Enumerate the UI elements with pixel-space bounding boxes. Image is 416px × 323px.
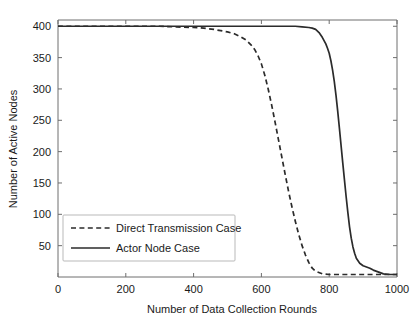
x-tick-label: 600 [252,283,270,295]
legend-label-actor-node-case: Actor Node Case [116,242,200,254]
line-chart: 50100150200250300350400 0200400600800100… [0,0,416,323]
y-tick-label: 200 [33,146,51,158]
x-tick-label: 200 [117,283,135,295]
legend-label-direct-transmission-case: Direct Transmission Case [116,222,241,234]
y-tick-label: 350 [33,52,51,64]
y-tick-label: 150 [33,177,51,189]
x-tick-label: 0 [55,283,61,295]
y-tick-label: 250 [33,114,51,126]
x-tick-label: 1000 [385,283,409,295]
y-tick-label: 50 [39,240,51,252]
figure-container: 50100150200250300350400 0200400600800100… [0,0,416,323]
y-tick-label: 400 [33,20,51,32]
x-tick-label: 400 [184,283,202,295]
x-tick-label: 800 [320,283,338,295]
y-tick-label: 300 [33,83,51,95]
chart-legend: Direct Transmission Case Actor Node Case [63,215,241,261]
x-axis-title: Number of Data Collection Rounds [147,303,317,315]
y-tick-label: 100 [33,208,51,220]
y-axis-title: Number of Active Nodes [7,89,19,208]
